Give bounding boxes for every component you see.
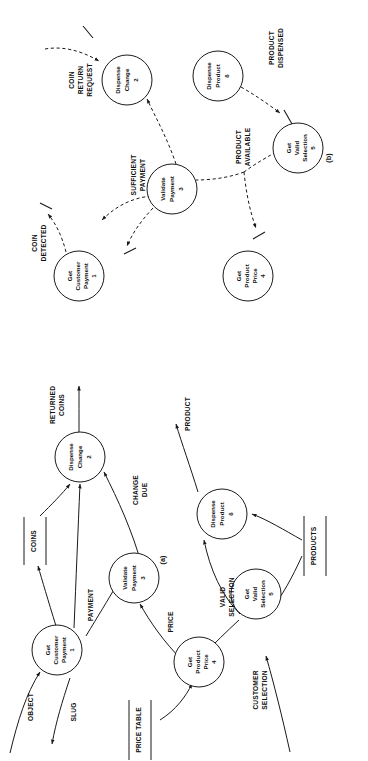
process-a-6-line1: Dispense (209, 500, 216, 528)
process-a-5-number: 5 (267, 592, 274, 596)
process-a-2-number: 2 (85, 455, 92, 459)
process-a-1-number: 1 (68, 648, 75, 652)
process-a-1-line3: Payment (60, 637, 67, 663)
process-b-5-number: 5 (309, 146, 316, 150)
data-store-coins-label: COINS (30, 530, 37, 552)
dfd-figure-svg: Get Customer Payment 1 Dispense Change 2… (0, 0, 368, 761)
label-coin-return-request-line2: RETURN (77, 66, 84, 95)
label-coin-detected-line2: DETECTED (40, 224, 47, 261)
process-a-3-line2: Payment (130, 565, 137, 591)
process-b-6-line2: Product (214, 64, 221, 87)
process-b-1-line3: Payment (82, 263, 89, 289)
process-a-get-product-price[interactable]: Get Product Price 4 (174, 637, 224, 687)
process-b-1-number: 1 (90, 274, 97, 278)
process-a-dispense-product[interactable]: Dispense Product 6 (197, 489, 247, 539)
process-b-2-number: 2 (132, 78, 139, 82)
process-b-dispense-change[interactable]: Dispense Change 2 (102, 55, 152, 105)
process-a-5-line2: Valid (251, 587, 258, 602)
process-b-4-line2: Product (243, 264, 250, 287)
label-object: OBJECT (27, 693, 34, 721)
part-label-b: (b) (324, 153, 333, 163)
data-store-price-table-label: PRICE TABLE (135, 707, 142, 753)
figure-canvas: Get Customer Payment 1 Dispense Change 2… (0, 0, 368, 761)
process-b-2-line1: Dispense (114, 66, 121, 94)
process-a-5-line3: Selection (259, 580, 266, 608)
label-coin-return-request-line1: COIN (68, 71, 75, 88)
label-product-dispensed-line1: PRODUCT (268, 31, 275, 65)
process-b-3-line2: Payment (168, 176, 175, 202)
process-a-3-number: 3 (139, 576, 146, 580)
label-product-available-line1: PRODUCT (235, 130, 242, 164)
process-a-validate-payment[interactable]: Validate Payment 3 (109, 553, 159, 603)
label-valid-selection-line2: SELECTION (228, 577, 235, 617)
process-a-get-customer-payment[interactable]: Get Customer Payment 1 (32, 625, 82, 675)
process-b-4-number: 4 (259, 274, 266, 278)
process-a-6-line2: Product (218, 502, 225, 525)
label-product-available-line2: AVAILABLE (244, 127, 251, 166)
process-a-4-line1: Get (186, 657, 193, 667)
process-b-4-line1: Get (235, 271, 242, 281)
process-b-2-line2: Change (123, 68, 130, 91)
label-price: PRICE (167, 611, 174, 633)
label-sufficient-payment-line2: PAYMENT (139, 159, 146, 192)
process-a-1-line1: Get (44, 645, 51, 655)
label-slug: SLUG (70, 702, 77, 721)
process-a-6-number: 6 (227, 512, 234, 516)
label-product-dispensed-line2: DISPENSED (277, 28, 284, 68)
process-b-4-line3: Price (251, 268, 258, 284)
process-b-get-valid-selection[interactable]: Get Valid Selection 5 (273, 123, 323, 173)
process-b-get-product-price[interactable]: Get Product Price 4 (223, 251, 273, 301)
process-a-1-line2: Customer (52, 635, 59, 664)
process-b-5-line1: Get (285, 143, 292, 153)
process-b-5-line3: Selection (301, 134, 308, 162)
process-b-get-customer-payment[interactable]: Get Customer Payment 1 (54, 251, 104, 301)
process-b-dispense-product[interactable]: Dispense Product 6 (193, 51, 243, 101)
process-a-2-line2: Change (76, 445, 83, 468)
label-returned-coins-line1: RETURNED (49, 386, 56, 424)
process-a-dispense-change[interactable]: Dispense Change 2 (55, 432, 105, 482)
label-valid-selection-line1: VALID (219, 587, 226, 607)
process-a-5-line1: Get (243, 589, 250, 599)
process-b-1-line1: Get (66, 271, 73, 281)
process-a-4-number: 4 (210, 660, 217, 664)
process-a-4-line3: Price (202, 654, 209, 670)
part-label-a: (a) (158, 555, 167, 565)
label-coin-return-request-line3: REQUEST (86, 63, 94, 96)
process-b-validate-payment[interactable]: Validate Payment 3 (147, 164, 197, 214)
label-product: PRODUCT (184, 397, 191, 431)
label-returned-coins-line2: COINS (58, 394, 65, 416)
process-a-4-line2: Product (194, 650, 201, 673)
process-a-3-line1: Validate (121, 566, 128, 590)
process-b-5-line2: Valid (293, 141, 300, 156)
process-b-1-line2: Customer (74, 261, 81, 290)
label-payment: PAYMENT (87, 589, 94, 622)
label-change-due-line2: DUE (141, 482, 148, 497)
label-customer-selection-line1: CUSTOMER (252, 670, 259, 709)
process-b-6-line1: Dispense (205, 62, 212, 90)
process-b-6-number: 6 (223, 74, 230, 78)
process-b-3-line1: Validate (159, 177, 166, 201)
data-store-products-label: PRODUCTS (310, 526, 317, 565)
label-sufficient-payment-line1: SUFFICIENT (130, 155, 137, 196)
label-customer-selection-line2: SELECTION (261, 670, 268, 710)
label-coin-detected-line1: COIN (31, 234, 38, 251)
label-change-due-line1: CHANGE (132, 475, 139, 505)
process-b-3-number: 3 (177, 187, 184, 191)
process-a-get-valid-selection[interactable]: Get Valid Selection 5 (231, 569, 281, 619)
process-a-2-line1: Dispense (67, 443, 74, 471)
